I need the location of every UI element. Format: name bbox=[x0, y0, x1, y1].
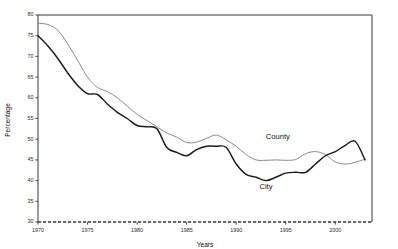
y-tick-label: 80 bbox=[28, 11, 34, 17]
series-annotation-city: City bbox=[259, 182, 272, 191]
x-tick-label: 2000 bbox=[329, 227, 341, 233]
y-tick-label: 60 bbox=[28, 94, 34, 100]
x-axis-tick-labels: 1970197519801985199019952000 bbox=[32, 227, 341, 233]
axis-tickmarks bbox=[35, 15, 335, 225]
x-tick-label: 1995 bbox=[280, 227, 292, 233]
x-tick-label: 1990 bbox=[230, 227, 242, 233]
y-tick-label: 45 bbox=[28, 156, 34, 162]
x-tick-label: 1980 bbox=[131, 227, 143, 233]
data-series-group bbox=[38, 23, 365, 180]
x-tick-label: 1970 bbox=[32, 227, 44, 233]
y-tick-label: 65 bbox=[28, 74, 34, 80]
y-axis-tick-labels: 3035404550556065707580 bbox=[28, 11, 34, 224]
series-annotations: CountyCity bbox=[259, 132, 290, 191]
axis-lines bbox=[38, 15, 372, 222]
x-tick-label: 1975 bbox=[82, 227, 94, 233]
y-tick-label: 70 bbox=[28, 53, 34, 59]
y-tick-label: 40 bbox=[28, 177, 34, 183]
x-tick-label: 1985 bbox=[181, 227, 193, 233]
y-tick-label: 50 bbox=[28, 136, 34, 142]
y-tick-label: 55 bbox=[28, 115, 34, 121]
y-tick-label: 30 bbox=[28, 218, 34, 224]
y-axis-title: Percentage bbox=[4, 103, 12, 137]
line-chart: 3035404550556065707580 19701975198019851… bbox=[0, 0, 398, 249]
chart-container: 3035404550556065707580 19701975198019851… bbox=[0, 0, 398, 249]
y-tick-label: 35 bbox=[28, 198, 34, 204]
plot-frame bbox=[38, 15, 372, 222]
y-tick-label: 75 bbox=[28, 32, 34, 38]
x-axis-title: Years bbox=[197, 241, 214, 248]
series-line-city bbox=[38, 36, 365, 181]
series-annotation-county: County bbox=[266, 132, 290, 141]
